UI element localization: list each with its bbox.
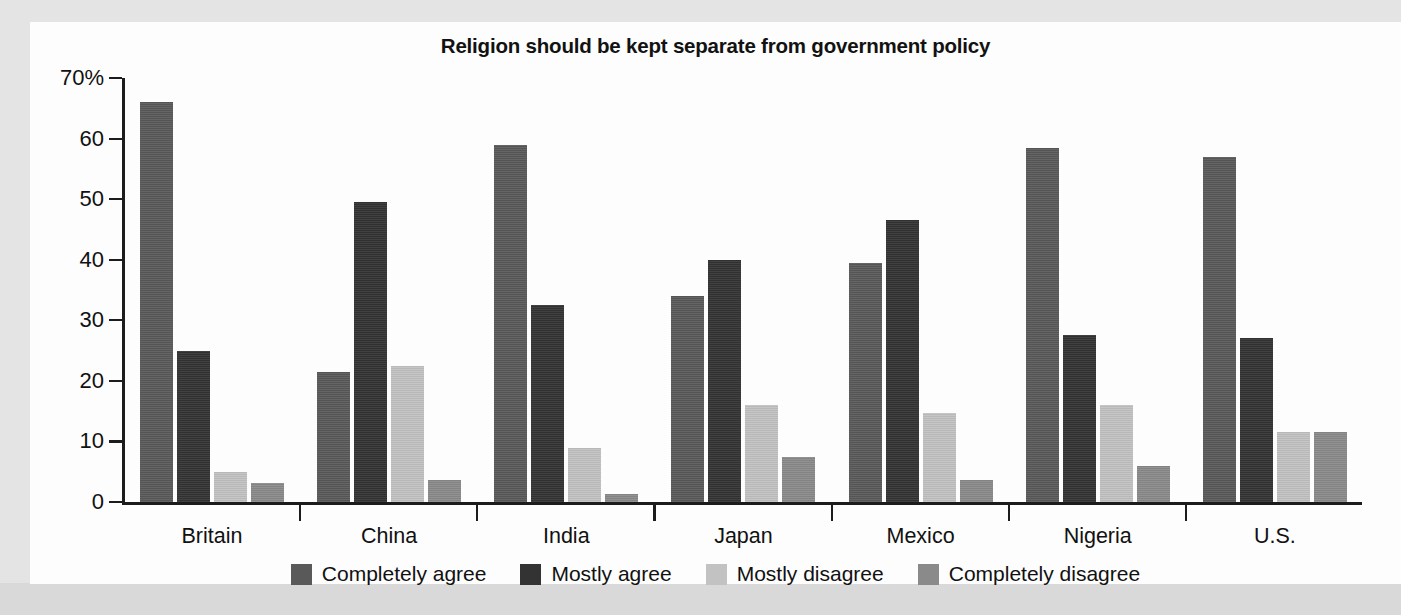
category-label-japan: Japan [714,524,773,549]
chart-figure: Religion should be kept separate from go… [30,22,1401,584]
group-separator-tick-2 [476,504,478,521]
bar-us-mostly-agree [1240,338,1273,502]
bar-india-completely-agree [494,145,527,502]
bar-britain-mostly-agree [177,351,210,502]
legend-label-mostly-agree: Mostly agree [551,562,671,586]
bar-india-completely-disagree [605,494,638,502]
group-separator-tick-4 [831,504,833,521]
legend-item-completely-agree[interactable]: Completely agree [291,562,487,586]
bar-japan-mostly-agree [708,260,741,502]
y-axis-label-70%: 70% [24,65,104,91]
bar-china-completely-disagree [428,480,461,502]
legend-item-mostly-disagree[interactable]: Mostly disagree [706,562,884,586]
category-label-britain: Britain [182,524,243,549]
group-separator-tick-1 [299,504,301,521]
bar-mexico-completely-disagree [960,480,993,502]
y-axis-label-20: 20 [24,368,104,394]
category-label-nigeria: Nigeria [1064,524,1132,549]
y-axis-label-40: 40 [24,247,104,273]
bar-india-mostly-agree [531,305,564,502]
y-tick-10 [109,440,122,442]
bar-nigeria-completely-disagree [1137,466,1170,502]
bar-us-completely-disagree [1314,432,1347,502]
bar-china-completely-agree [317,372,350,502]
legend-label-completely-disagree: Completely disagree [949,562,1140,586]
bar-nigeria-completely-agree [1026,148,1059,502]
group-separator-tick-3 [653,504,655,521]
bar-mexico-completely-agree [849,263,882,502]
bar-india-mostly-disagree [568,448,601,503]
y-axis-label-10: 10 [24,428,104,454]
bar-japan-completely-disagree [782,457,815,502]
legend-swatch-icon-completely-disagree [918,564,939,585]
category-label-us: U.S. [1254,524,1296,549]
bar-mexico-mostly-disagree [923,413,956,502]
y-tick-50 [109,198,122,200]
legend-item-mostly-agree[interactable]: Mostly agree [520,562,671,586]
bar-britain-completely-disagree [251,483,284,502]
y-axis-label-60: 60 [24,126,104,152]
legend-label-completely-agree: Completely agree [322,562,487,586]
legend-swatch-icon-mostly-agree [520,564,541,585]
bar-nigeria-mostly-disagree [1100,405,1133,502]
plot-area: 010203040506070% [122,78,1362,502]
category-label-india: India [543,524,590,549]
chart-title: Religion should be kept separate from go… [30,34,1401,58]
y-axis-label-30: 30 [24,307,104,333]
bar-japan-completely-agree [671,296,704,502]
scanned-page: Religion should be kept separate from go… [0,0,1401,615]
category-label-china: China [361,524,417,549]
legend-label-mostly-disagree: Mostly disagree [737,562,884,586]
category-label-mexico: Mexico [887,524,955,549]
x-axis-line [122,502,1362,505]
y-tick-0 [109,501,122,503]
bar-us-mostly-disagree [1277,432,1310,502]
y-axis-label-50: 50 [24,186,104,212]
legend-swatch-icon-completely-agree [291,564,312,585]
bar-britain-completely-agree [140,102,173,502]
bar-japan-mostly-disagree [745,405,778,502]
y-axis-line [122,78,125,502]
bar-us-completely-agree [1203,157,1236,502]
bar-china-mostly-agree [354,202,387,502]
bar-nigeria-mostly-agree [1063,335,1096,502]
y-tick-40 [109,259,122,261]
bar-mexico-mostly-agree [886,220,919,502]
legend-item-completely-disagree[interactable]: Completely disagree [918,562,1140,586]
y-tick-30 [109,319,122,321]
group-separator-tick-6 [1185,504,1187,521]
bar-china-mostly-disagree [391,366,424,502]
y-tick-60 [109,138,122,140]
y-tick-70% [109,77,122,79]
bar-britain-mostly-disagree [214,472,247,502]
legend-swatch-icon-mostly-disagree [706,564,727,585]
y-tick-20 [109,380,122,382]
page-background-bottom [0,583,1401,615]
y-axis-label-0: 0 [24,489,104,515]
chart-legend: Completely agreeMostly agreeMostly disag… [30,562,1401,586]
group-separator-tick-5 [1008,504,1010,521]
